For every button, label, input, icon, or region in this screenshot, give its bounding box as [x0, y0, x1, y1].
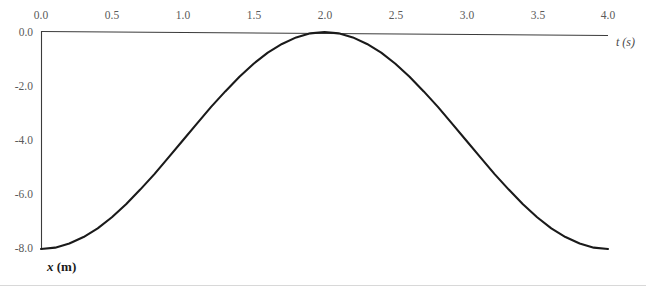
x-axis-title: t (s) [616, 35, 635, 49]
y-tick-label: -8.0 [15, 242, 33, 254]
y-axis-title-units: (m) [54, 259, 77, 274]
y-tick-label: 0.0 [19, 26, 34, 38]
y-tick-label: -6.0 [15, 188, 33, 200]
x-tick-label: 3.5 [531, 9, 546, 21]
x-axis-title-symbol: t (s) [616, 35, 635, 49]
y-axis-title: x (m) [46, 259, 76, 274]
physics-position-time-plot: 0.0 0.5 1.0 1.5 2.0 2.5 3.0 3.5 4.0 0.0 … [0, 0, 646, 293]
x-tick-label: 1.5 [247, 9, 262, 21]
x-tick-label: 2.5 [389, 9, 404, 21]
position-time-curve [41, 32, 608, 249]
x-tick-label: 3.0 [460, 9, 475, 21]
y-tick-label: -4.0 [15, 134, 33, 146]
x-tick-labels: 0.0 0.5 1.0 1.5 2.0 2.5 3.0 3.5 4.0 [34, 9, 616, 21]
x-tick-label: 4.0 [601, 9, 616, 21]
y-tick-label: -2.0 [15, 80, 33, 92]
x-tick-label: 0.0 [34, 9, 49, 21]
x-tick-label: 2.0 [318, 9, 333, 21]
x-tick-label: 1.0 [176, 9, 191, 21]
figure-container: 0.0 0.5 1.0 1.5 2.0 2.5 3.0 3.5 4.0 0.0 … [0, 0, 646, 293]
axis-lines [41, 31, 608, 249]
x-tick-label: 0.5 [105, 9, 120, 21]
y-tick-labels: 0.0 -2.0 -4.0 -6.0 -8.0 [15, 26, 33, 254]
